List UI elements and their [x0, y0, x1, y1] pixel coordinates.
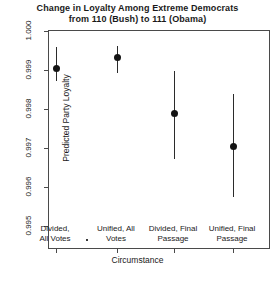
data-point: [114, 54, 121, 61]
y-tick-mark: [44, 70, 49, 71]
chart-title-line-1: Change in Loyalty Among Extreme Democrat…: [37, 3, 239, 13]
x-tick-label-line-2: Passage: [216, 234, 247, 243]
x-tick-label-line-2: Votes: [106, 234, 126, 243]
x-tick-label-line-2: All Votes: [39, 234, 70, 243]
data-point: [171, 110, 178, 117]
x-tick-label-line-1: Unified, Final: [209, 224, 256, 233]
x-tick-label-unified-final-passage: Unified, Final Passage: [199, 224, 265, 244]
x-axis-title: Circumstance: [0, 255, 275, 265]
y-tick-label: 0.996: [24, 174, 33, 200]
chart-title: Change in Loyalty Among Extreme Democrat…: [0, 3, 275, 25]
chart-figure: Change in Loyalty Among Extreme Democrat…: [0, 0, 275, 292]
data-point: [230, 143, 237, 150]
x-tick-mark: [56, 248, 57, 253]
y-tick-label: 0.999: [24, 57, 33, 83]
y-tick-mark: [44, 109, 49, 110]
y-tick-mark: [44, 187, 49, 188]
x-tick-mark: [117, 248, 118, 253]
y-axis-title: Predicted Party Loyalty: [61, 38, 71, 198]
y-tick-mark: [44, 31, 49, 32]
error-bar: [56, 47, 57, 81]
plot-area: 1.000 0.999 0.998 0.997 0.996 0.995 Pred…: [48, 30, 270, 249]
x-tick-label-line-1: Divided, Final: [149, 224, 197, 233]
y-tick-label: 1.000: [24, 18, 33, 44]
y-tick-label: 0.997: [24, 135, 33, 161]
chart-title-line-2: from 110 (Bush) to 111 (Obama): [0, 14, 275, 25]
x-tick-mark: [174, 248, 175, 253]
x-tick-label-divided-final-passage: Divided, Final Passage: [140, 224, 206, 244]
x-tick-label-line-2: Passage: [157, 234, 188, 243]
y-tick-mark: [44, 148, 49, 149]
plot-inner: 1.000 0.999 0.998 0.997 0.996 0.995 Pred…: [49, 31, 269, 248]
x-tick-label-line-1: Divided,: [41, 224, 70, 233]
x-tick-mark: [233, 248, 234, 253]
data-point: [53, 65, 60, 72]
x-tick-label-line-1: Unified, All: [97, 224, 135, 233]
x-tick-label-divided-all-votes: Divided, All Votes: [22, 224, 88, 244]
y-tick-label: 0.998: [24, 96, 33, 122]
